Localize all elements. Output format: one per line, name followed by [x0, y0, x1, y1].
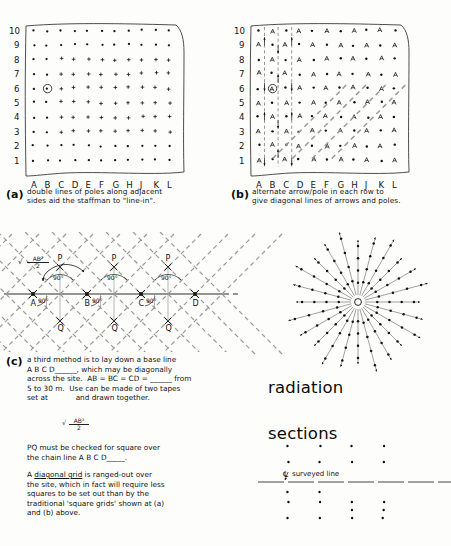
underlined-phrase: diagonal grid [34, 470, 82, 479]
diagram-c-lower-label: Q [166, 324, 172, 334]
diagram-c-angle-lower: 90° [38, 297, 49, 304]
diagram-c-text-line: and (b) above. [27, 508, 165, 518]
diagram-c-apex-label: P [112, 254, 117, 264]
grid-a-row-label: 6 [14, 84, 19, 94]
grid-b-row-label: 6 [239, 84, 244, 94]
diagram-c-text-line: PQ must be checked for square over [27, 443, 160, 453]
diagram-c-text-line: the site, which in fact will require les… [27, 480, 165, 490]
figure-vector-layer [0, 0, 451, 546]
diagram-c-text-line: the chain line A B C D_____. [27, 453, 160, 463]
grid-b-row-label: 8 [239, 55, 244, 65]
formula-denominator: 2 [27, 262, 49, 269]
diagram-c-angle-lower: 90° [92, 297, 103, 304]
diagram-c-base-point-label: C [139, 299, 145, 309]
inline-formula-denominator: 2 [69, 424, 89, 431]
diagram-c-text-line: 5 to 30 m. Use can be made of two tapes [27, 384, 191, 394]
diagram-c-base-point-label: A [31, 299, 36, 309]
diagram-c-text-line: A diagonal grid is ranged-out over [27, 470, 165, 480]
grid-b-row-label: 9 [239, 40, 244, 50]
grid-a-row-label: 4 [14, 112, 19, 122]
grid-b-row-label: 3 [239, 127, 244, 137]
grid-b-row-label: 7 [239, 69, 244, 79]
grid-a-row-label: 8 [14, 55, 19, 65]
diagram-c-text-block-2: PQ must be checked for square overthe ch… [27, 443, 160, 462]
grid-a-row-label: 3 [14, 127, 19, 137]
diagram-c-text-line: A B C D______, which may be diagonally [27, 365, 191, 375]
diagram-c-text-line: across the site. AB = BC = CD = ______ f… [27, 374, 191, 384]
grid-b-markers [256, 27, 406, 167]
grid-a-col-label: L [167, 180, 172, 190]
grid-b-boundary [250, 24, 409, 176]
caption-a-line2: sides aid the staffman to "line-in". [27, 197, 155, 206]
diagram-c-text-block-1: a third method is to lay down a base lin… [27, 355, 191, 403]
grid-a-row-label: 10 [9, 26, 20, 36]
inline-radical-sign: √ [62, 420, 66, 428]
diagram-c-base-point-label: D [193, 299, 199, 309]
diagram-c-angle-upper: 90° [107, 274, 118, 281]
diagram-c-angle-upper: 90° [53, 274, 64, 281]
formula-ab-squared-over-2: AB² 2 [27, 256, 49, 270]
sections-label: sections [268, 424, 338, 444]
sections-marks [258, 445, 451, 519]
radiation-rays [255, 232, 428, 392]
diagram-c-lower-label: Q [112, 324, 118, 334]
diagram-c-text-line: a third method is to lay down a base lin… [27, 355, 191, 365]
diagram-c-apex-label: P [58, 254, 63, 264]
diagram-c-lines [0, 226, 284, 360]
caption-label-a: (a) [6, 188, 23, 201]
grid-b-row-label: 4 [239, 112, 244, 122]
surveyed-line-label: surveyed line [292, 470, 339, 479]
grid-b-row-label: 10 [234, 26, 245, 36]
caption-label-b: (b) [231, 188, 249, 201]
diagram-c-text-line: squares to be set out than by the [27, 489, 165, 499]
grid-a-row-label: 2 [14, 141, 19, 151]
caption-label-c: (c) [6, 355, 23, 368]
diagram-c-angle-upper: 90° [161, 274, 172, 281]
diagram-c-angle-lower: 90° [146, 297, 157, 304]
diagram-c-apex-label: P [166, 254, 171, 264]
grid-b-row-label: 2 [239, 141, 244, 151]
caption-b-line2: give diagonal lines of arrows and poles. [252, 197, 401, 206]
grid-a-boundary [25, 24, 184, 176]
inline-formula-ab-squared-over-2: AB² 2 [69, 418, 89, 432]
diagram-c-text-line: set at and drawn together. [27, 393, 191, 403]
diagram-c-text-block-3: A diagonal grid is ranged-out overthe si… [27, 470, 165, 518]
figure-page: 10987654321 ABCDEFGHJKL (a) double lines… [0, 0, 451, 546]
grid-a-row-label: 1 [14, 156, 19, 166]
radiation-label: radiation [268, 378, 343, 398]
diagram-c-lower-label: Q [58, 324, 64, 334]
grid-a-dots [32, 29, 172, 163]
diagram-c-base-point-label: B [85, 299, 91, 309]
grid-a-row-label: 7 [14, 69, 19, 79]
centerline-symbol: ℄ [283, 470, 288, 480]
grid-b-row-label: 5 [239, 98, 244, 108]
grid-b-col-label: L [392, 180, 397, 190]
radical-sign: √ [18, 258, 22, 267]
diagram-c-text-line: traditional 'square grids' shown at (a) [27, 499, 165, 509]
grid-b-row-label: 1 [239, 156, 244, 166]
grid-a-row-label: 5 [14, 98, 19, 108]
grid-a-row-label: 9 [14, 40, 19, 50]
